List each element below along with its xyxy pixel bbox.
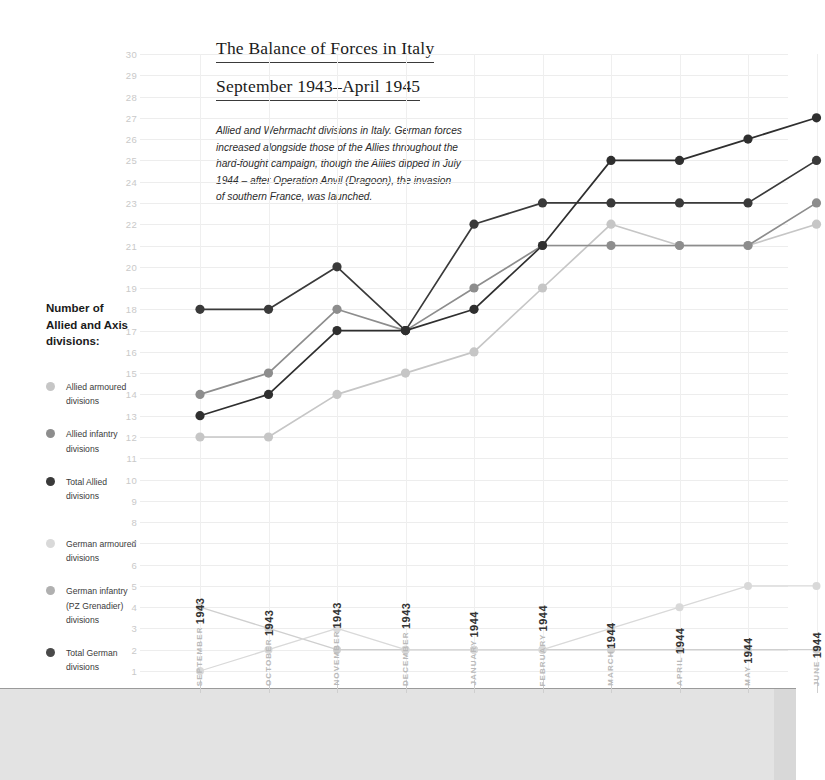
x-axis-label-month: MAY [743,666,752,686]
data-point [469,220,478,229]
y-axis-tick-label: 6 [107,559,137,570]
data-point [743,241,752,250]
data-point [743,198,752,207]
x-axis-label-year: 1943 [331,602,343,628]
page-edge-shadow [774,689,796,780]
data-point [469,347,478,356]
series-line [200,224,817,437]
y-axis-tick-label: 7 [107,538,137,549]
x-axis-label-month: DECEMBER [401,631,410,686]
x-axis-label: NOVEMBER1943 [329,602,345,686]
data-point [743,135,752,144]
plot-area: 3029282726252423222120191817161514131211… [140,54,788,680]
data-point [538,198,547,207]
y-axis-tick-label: 5 [107,580,137,591]
y-axis-tick-label: 20 [107,261,137,272]
x-axis-label: MARCH1944 [603,622,619,686]
x-axis-label: DECEMBER1943 [398,603,414,686]
x-axis-label: OCTOBER1943 [261,610,277,686]
y-axis-tick-label: 3 [107,623,137,634]
y-axis-tick-label: 21 [107,240,137,251]
legend-swatch-icon [46,382,55,391]
data-point [538,283,547,292]
y-axis-tick-label: 25 [107,155,137,166]
series-lines [140,54,788,680]
data-point [812,198,821,207]
y-axis-tick-label: 27 [107,112,137,123]
x-axis-label-year: 1944 [468,611,480,637]
x-axis-label-month: SEPTEMBER [195,626,204,686]
data-point [264,390,273,399]
data-point [332,326,341,335]
y-axis-tick-label: 30 [107,49,137,60]
x-axis-label-month: JUNE [812,660,821,686]
y-axis-tick-label: 17 [107,325,137,336]
y-axis-tick-label: 29 [107,70,137,81]
y-axis-tick-label: 24 [107,176,137,187]
data-point [401,326,410,335]
y-axis-tick-label: 10 [107,474,137,485]
legend-swatch-icon [46,648,55,657]
x-axis-label: FEBRUARY1944 [535,605,551,686]
x-axis-label-year: 1944 [674,628,686,654]
data-point [401,369,410,378]
x-axis-label-month: JANUARY [469,640,478,686]
x-axis-band [0,688,796,780]
x-axis-label: JUNE1944 [809,632,825,686]
y-axis-tick-label: 8 [107,517,137,528]
data-point [195,411,204,420]
x-axis-label-year: 1944 [742,637,754,663]
data-point [195,390,204,399]
data-point [264,305,273,314]
y-axis-tick-label: 14 [107,389,137,400]
x-axis-label: MAY1944 [740,637,756,686]
data-point [812,220,821,229]
x-axis-label-month: OCTOBER [264,638,273,686]
data-point [264,369,273,378]
data-point [812,156,821,165]
data-point [538,241,547,250]
data-point [606,220,615,229]
y-axis-tick-label: 22 [107,219,137,230]
legend-swatch-icon [46,477,55,486]
data-point [675,198,684,207]
x-axis-label: SEPTEMBER1943 [192,598,208,686]
data-point [812,113,821,122]
y-axis-tick-label: 18 [107,304,137,315]
legend-swatch-icon [46,429,55,438]
y-axis-tick-label: 19 [107,283,137,294]
data-point [744,582,752,590]
y-axis-tick-label: 13 [107,410,137,421]
y-axis-tick-label: 16 [107,346,137,357]
y-axis-tick-label: 1 [107,666,137,677]
y-axis-tick-label: 2 [107,644,137,655]
data-point [195,305,204,314]
data-point [675,156,684,165]
series-line [200,607,817,650]
y-axis-tick-label: 26 [107,134,137,145]
x-axis-label-year: 1944 [811,632,823,658]
data-point [332,305,341,314]
data-point [813,582,821,590]
data-point [195,432,204,441]
data-point [606,198,615,207]
series-line [200,203,817,395]
x-axis-label-month: APRIL [675,657,684,687]
data-point [264,432,273,441]
x-axis-label-year: 1944 [605,622,617,648]
x-axis-label-month: NOVEMBER [332,631,341,686]
x-axis-label-year: 1944 [537,605,549,631]
data-point [676,603,684,611]
data-point [469,305,478,314]
y-axis-tick-label: 23 [107,197,137,208]
x-axis-label: APRIL1944 [672,628,688,686]
x-axis-label-year: 1943 [263,610,275,636]
x-axis-label-year: 1943 [400,603,412,629]
data-point [606,241,615,250]
x-axis-label-month: FEBRUARY [538,633,547,686]
x-axis-label: JANUARY1944 [466,611,482,686]
y-axis-tick-label: 28 [107,91,137,102]
data-point [675,241,684,250]
legend-swatch-icon [46,586,55,595]
